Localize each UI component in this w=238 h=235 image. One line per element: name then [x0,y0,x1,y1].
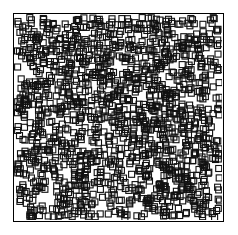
data-point-marker [62,21,68,27]
data-point-marker [116,198,122,204]
data-point-marker [139,15,145,21]
data-point-marker [109,196,115,202]
data-point-marker [76,193,82,199]
data-point-marker [116,146,122,152]
data-point-marker [90,191,96,197]
data-point-marker [215,51,221,57]
data-point-marker [65,127,71,133]
data-point-marker [28,17,34,23]
data-point-marker [118,145,124,151]
data-point-marker [22,124,28,130]
data-point-marker [128,31,134,37]
data-point-marker [104,173,110,179]
data-point-marker [15,64,21,70]
data-point-marker [53,127,59,133]
data-point-marker [34,93,40,99]
data-point-marker [129,171,135,177]
data-point-marker [65,25,71,31]
data-point-marker [105,211,111,217]
data-point-marker [188,59,194,65]
data-point-marker [212,215,218,221]
data-point-marker [118,197,124,203]
data-point-marker [115,22,121,28]
data-point-marker [215,205,221,211]
data-point-marker [210,84,216,90]
data-point-marker [97,186,103,192]
data-point-marker [175,205,181,211]
data-point-marker [179,101,185,107]
plot-area [13,13,224,222]
data-point-marker [54,189,60,195]
data-point-marker [53,93,59,99]
data-point-marker [142,31,148,37]
scatter-markers [14,14,222,220]
data-point-marker [27,15,33,21]
data-point-marker [100,194,106,200]
data-point-marker [200,21,206,27]
data-point-marker [216,80,222,86]
data-point-marker [174,77,180,83]
data-point-marker [196,189,202,195]
data-point-marker [216,166,222,172]
data-point-marker [216,175,222,181]
data-point-marker [34,93,40,99]
data-point-marker [179,62,185,68]
